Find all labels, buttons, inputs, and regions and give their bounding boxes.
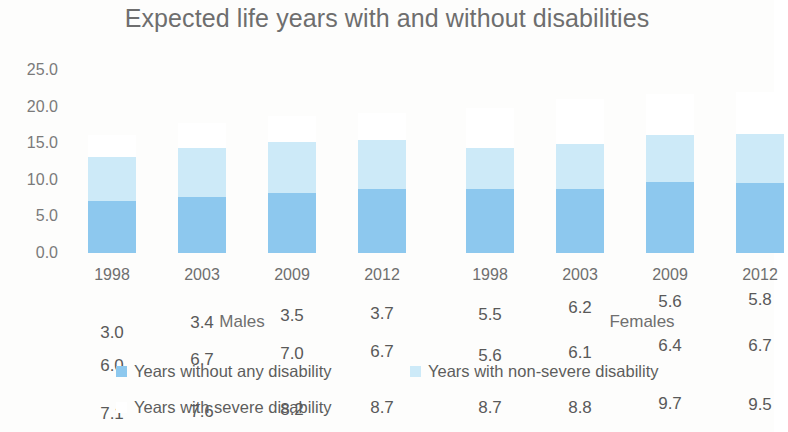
x-axis-tick-label: 2003	[548, 266, 612, 284]
x-axis-group-labels: MalesFemales	[62, 312, 774, 338]
bar-segment	[88, 135, 136, 157]
bar-segment	[88, 201, 136, 253]
y-axis-tick-label: 5.0	[6, 207, 58, 225]
legend-label: Years without any disability	[134, 362, 332, 381]
bar-value-label: 5.6	[646, 292, 694, 309]
bar-segment	[358, 113, 406, 140]
bar-segment	[268, 142, 316, 193]
bar-value-label: 6.7	[358, 342, 406, 359]
bar-segment	[466, 148, 514, 189]
bar-segment	[88, 157, 136, 201]
legend-swatch-icon	[116, 366, 127, 377]
x-axis-tick-label: 2003	[170, 266, 234, 284]
legend-label: Years with non-severe disability	[428, 362, 659, 381]
chart-title: Expected life years with and without dis…	[0, 4, 774, 33]
bar-segment	[646, 182, 694, 253]
legend-swatch-icon	[410, 366, 421, 377]
legend-item[interactable]: Years with severe disability	[116, 398, 331, 417]
bar-series-area: 7.16.03.07.66.73.48.27.03.58.76.73.78.75…	[62, 60, 774, 260]
legend-label: Years with severe disability	[134, 398, 331, 417]
bar-segment	[556, 99, 604, 144]
x-axis-group-label: Males	[219, 312, 264, 332]
bar-segment	[646, 94, 694, 135]
bar-segment	[736, 183, 784, 253]
x-axis-tick-label: 2009	[260, 266, 324, 284]
bar-segment	[556, 189, 604, 253]
bar-segment	[466, 108, 514, 148]
bar-segment	[358, 140, 406, 189]
legend-item[interactable]: Years without any disability	[116, 362, 332, 381]
y-axis-tick-label: 10.0	[6, 171, 58, 189]
bar-segment	[646, 135, 694, 182]
x-axis-group-label: Females	[609, 312, 674, 332]
bar-segment	[268, 193, 316, 253]
bar-segment	[736, 92, 784, 134]
bar-segment	[556, 144, 604, 189]
plot-area: 25.020.015.010.05.00.0 7.16.03.07.66.73.…	[0, 60, 774, 260]
chart-legend: Years without any disabilityYears with n…	[0, 358, 774, 430]
x-axis-tick-label: 2009	[638, 266, 702, 284]
bar-value-label: 5.8	[736, 291, 784, 308]
y-axis-tick-label: 25.0	[6, 61, 58, 79]
bar-segment	[268, 116, 316, 142]
bar-segment	[178, 197, 226, 253]
y-axis-tick-label: 20.0	[6, 98, 58, 116]
legend-item[interactable]: Years with non-severe disability	[410, 362, 659, 381]
y-axis: 25.020.015.010.05.00.0	[6, 60, 58, 260]
x-axis-tick-label: 2012	[350, 266, 414, 284]
x-axis-tick-label: 1998	[458, 266, 522, 284]
bar-segment	[736, 134, 784, 183]
bar-segment	[466, 189, 514, 253]
legend-swatch-icon	[116, 402, 127, 413]
bar-segment	[178, 123, 226, 148]
y-axis-tick-label: 15.0	[6, 134, 58, 152]
bar-segment	[178, 148, 226, 197]
x-axis-category-labels: 19982003200920121998200320092012	[62, 266, 774, 292]
bar-segment	[358, 189, 406, 253]
y-axis-tick-label: 0.0	[6, 244, 58, 262]
bar-value-label: 6.4	[646, 336, 694, 353]
bar-value-label: 6.7	[736, 336, 784, 353]
x-axis-tick-label: 2012	[728, 266, 788, 284]
x-axis-tick-label: 1998	[80, 266, 144, 284]
